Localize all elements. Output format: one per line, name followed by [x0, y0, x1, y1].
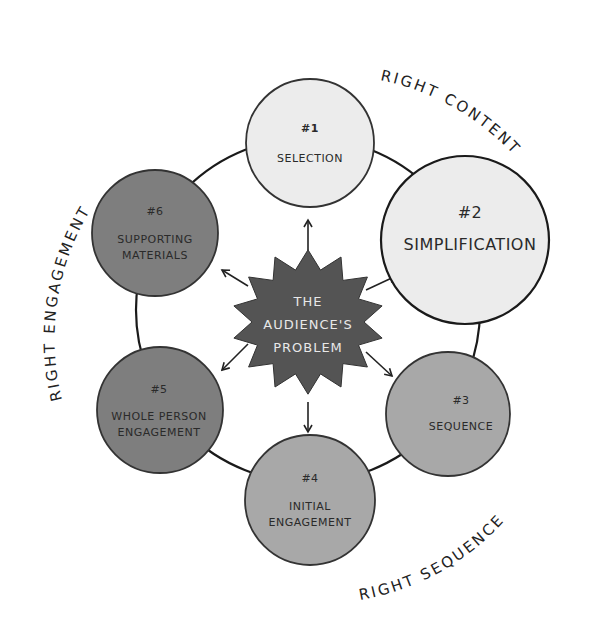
arc-label-right-content: RIGHT CONTENT — [379, 66, 525, 158]
node-number: #3 — [452, 394, 469, 407]
node-number: #6 — [146, 205, 163, 218]
node-number: #4 — [301, 472, 318, 485]
center-line-2: AUDIENCE'S — [263, 317, 352, 332]
node-number: #1 — [301, 122, 319, 135]
arrow-to-sequence — [366, 352, 392, 376]
node-label-line-2: MATERIALS — [122, 249, 188, 262]
node-number: #5 — [150, 383, 167, 396]
node-label: SEQUENCE — [429, 420, 493, 433]
node-label-line-1: SUPPORTING — [117, 233, 193, 246]
node-whole-person-engagement: #5 WHOLE PERSON ENGAGEMENT — [97, 347, 223, 473]
node-selection: #1 SELECTION — [246, 79, 374, 207]
node-simplification: #2 SIMPLIFICATION — [381, 156, 549, 324]
node-label-line-2: ENGAGEMENT — [269, 516, 352, 529]
center-line-1: THE — [293, 294, 323, 309]
node-number: #2 — [458, 203, 483, 222]
node-label-line-1: WHOLE PERSON — [111, 410, 206, 423]
arrow-to-supporting — [222, 270, 248, 286]
node-label-line-2: ENGAGEMENT — [118, 426, 201, 439]
node-circle — [386, 352, 510, 476]
node-supporting-materials: #6 SUPPORTING MATERIALS — [92, 170, 218, 296]
node-circle — [246, 79, 374, 207]
node-sequence: #3 SEQUENCE — [386, 352, 510, 476]
node-initial-engagement: #4 INITIAL ENGAGEMENT — [245, 435, 375, 565]
node-label: SIMPLIFICATION — [404, 235, 537, 254]
center-line-3: PROBLEM — [273, 340, 343, 355]
audience-problem-diagram: THE AUDIENCE'S PROBLEM #1 SELECTION #2 S… — [0, 0, 590, 633]
node-label-line-1: INITIAL — [289, 500, 331, 513]
arc-label-right-engagement: RIGHT ENGAGEMENT — [40, 202, 94, 403]
arrow-to-whole-person — [222, 344, 248, 370]
node-label: SELECTION — [277, 152, 343, 165]
center-starburst: THE AUDIENCE'S PROBLEM — [234, 250, 382, 394]
arc-label-right-sequence: RIGHT SEQUENCE — [357, 510, 508, 604]
